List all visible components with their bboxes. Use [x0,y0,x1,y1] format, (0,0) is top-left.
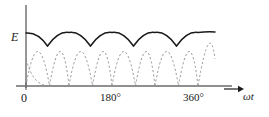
x-tick-label-180: 180° [100,92,121,103]
x-tick-label-360: 360° [183,92,204,103]
waveform-figure: E 0 180° 360° ωt [0,0,269,117]
solid-rectified-curve [26,32,215,46]
y-axis-label: E [11,31,18,43]
dashed-half-wave-component-b [26,52,198,87]
waveform-plot [0,0,269,117]
origin-label: 0 [21,92,27,104]
x-axis-arrow-icon [224,86,244,92]
x-axis-label: ωt [243,91,254,102]
dashed-half-wave-component-a [26,43,215,86]
